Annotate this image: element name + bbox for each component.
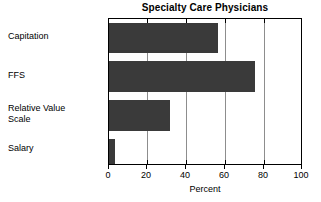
category-label-capitation: Capitation: [8, 31, 49, 42]
x-tick-label-20: 20: [131, 170, 161, 180]
x-axis-title: Percent: [108, 184, 302, 194]
tick-outside-0: [108, 165, 109, 169]
bar-ffs: [109, 61, 255, 92]
chart-title: Specialty Care Physicians: [108, 2, 302, 13]
tick-bottom-20: [147, 160, 148, 164]
tick-top-80: [264, 19, 265, 23]
bar-relative-value-scale: [109, 100, 170, 131]
x-tick-label-40: 40: [170, 170, 200, 180]
bar-capitation: [109, 23, 218, 53]
tick-outside-60: [224, 165, 225, 169]
tick-bottom-40: [186, 160, 187, 164]
x-tick-label-100: 100: [286, 170, 316, 180]
tick-outside-100: [301, 165, 302, 169]
tick-top-60: [225, 19, 226, 23]
tick-outside-40: [185, 165, 186, 169]
tick-outside-80: [263, 165, 264, 169]
gridline-80: [264, 19, 265, 164]
tick-outside-20: [146, 165, 147, 169]
category-label-relative-value-scale: Relative Value Scale: [8, 103, 65, 125]
bar-salary: [109, 139, 115, 164]
x-tick-label-80: 80: [248, 170, 278, 180]
category-label-salary: Salary: [8, 143, 34, 154]
plot-area: [108, 18, 302, 165]
tick-bottom-80: [264, 160, 265, 164]
x-tick-label-0: 0: [93, 170, 123, 180]
x-tick-label-60: 60: [209, 170, 239, 180]
category-label-ffs: FFS: [8, 70, 25, 81]
bar-chart: Specialty Care Physicians Capitation FFS…: [0, 0, 321, 202]
tick-bottom-60: [225, 160, 226, 164]
